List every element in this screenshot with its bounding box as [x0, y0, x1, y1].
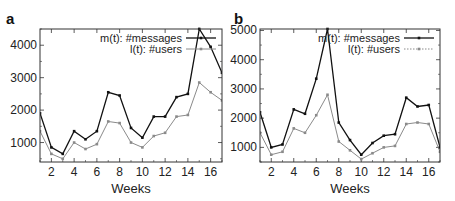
x-tick-label: 10 [136, 165, 150, 179]
data-point [371, 142, 374, 145]
x-tick-label: 8 [335, 165, 342, 179]
data-point [416, 121, 419, 124]
x-tick-label: 16 [204, 165, 218, 179]
data-point [281, 143, 284, 146]
data-point [50, 153, 53, 156]
legend-label: l(t): #users [348, 43, 400, 55]
x-tick-label: 4 [71, 165, 78, 179]
data-point [270, 153, 273, 156]
data-point [96, 143, 99, 146]
data-point [394, 145, 397, 148]
data-point [198, 81, 201, 84]
data-point [175, 96, 178, 99]
legend-marker [418, 37, 421, 40]
y-tick-label: 2000 [230, 111, 257, 125]
chart-panel-a: a2468101214161000200030004000m(t): #mess… [6, 10, 223, 196]
data-point [326, 93, 329, 96]
data-point [164, 132, 167, 135]
data-point [209, 46, 212, 49]
data-point [118, 122, 121, 125]
y-tick-label: 1000 [230, 140, 257, 154]
y-tick-label: 5000 [230, 23, 257, 37]
x-tick-label: 6 [94, 165, 101, 179]
data-point [141, 146, 144, 149]
data-point [360, 158, 363, 161]
y-tick-label: 1000 [10, 136, 37, 150]
y-tick-label: 3000 [10, 71, 37, 85]
data-point [371, 152, 374, 155]
series-line [40, 83, 222, 159]
data-point [84, 138, 87, 141]
data-point [187, 114, 190, 117]
data-point [209, 91, 212, 94]
data-point [292, 108, 295, 111]
x-tick-label: 8 [116, 165, 123, 179]
data-point [315, 77, 318, 80]
x-axis-label: Weeks [111, 181, 151, 196]
y-tick-label: 4000 [230, 53, 257, 67]
x-axis-label: Weeks [330, 181, 370, 196]
data-point [61, 157, 64, 160]
data-point [427, 123, 430, 126]
legend-marker [418, 48, 421, 51]
data-point [107, 91, 110, 94]
data-point [405, 123, 408, 126]
data-point [337, 121, 340, 124]
x-tick-label: 16 [422, 165, 436, 179]
data-point [337, 140, 340, 143]
data-point [304, 112, 307, 115]
data-point [130, 127, 133, 130]
chart-panel-b: b24681012141610002000300040005000m(t): #… [230, 10, 441, 196]
data-point [130, 141, 133, 144]
data-point [427, 104, 430, 107]
data-point [270, 146, 273, 149]
data-point [304, 131, 307, 134]
data-point [73, 141, 76, 144]
data-point [175, 115, 178, 118]
data-point [152, 135, 155, 138]
data-point [118, 94, 121, 97]
data-point [416, 105, 419, 108]
x-tick-label: 10 [355, 165, 369, 179]
x-tick-label: 14 [400, 165, 414, 179]
data-point [382, 134, 385, 137]
data-point [349, 149, 352, 152]
x-tick-label: 14 [181, 165, 195, 179]
data-point [187, 93, 190, 96]
x-tick-label: 2 [268, 165, 275, 179]
legend-marker [200, 48, 203, 51]
x-tick-label: 6 [313, 165, 320, 179]
data-point [164, 115, 167, 118]
data-point [61, 153, 64, 156]
data-point [73, 130, 76, 133]
data-point [405, 96, 408, 99]
data-point [96, 130, 99, 133]
panel-label: a [6, 10, 15, 27]
y-tick-label: 2000 [10, 103, 37, 117]
data-point [315, 114, 318, 117]
figure: a2468101214161000200030004000m(t): #mess… [0, 0, 455, 201]
data-point [360, 153, 363, 156]
y-tick-label: 4000 [10, 38, 37, 52]
data-point [292, 127, 295, 130]
x-tick-label: 4 [290, 165, 297, 179]
data-point [152, 115, 155, 118]
legend-label: l(t): #users [130, 43, 182, 55]
legend-marker [200, 37, 203, 40]
data-point [84, 148, 87, 151]
data-point [382, 146, 385, 149]
x-tick-label: 2 [48, 165, 55, 179]
y-tick-label: 3000 [230, 82, 257, 96]
data-point [107, 120, 110, 123]
data-point [281, 150, 284, 153]
x-tick-label: 12 [377, 165, 391, 179]
data-point [141, 136, 144, 139]
data-point [394, 133, 397, 136]
x-tick-label: 12 [158, 165, 172, 179]
data-point [349, 139, 352, 142]
data-point [50, 146, 53, 149]
